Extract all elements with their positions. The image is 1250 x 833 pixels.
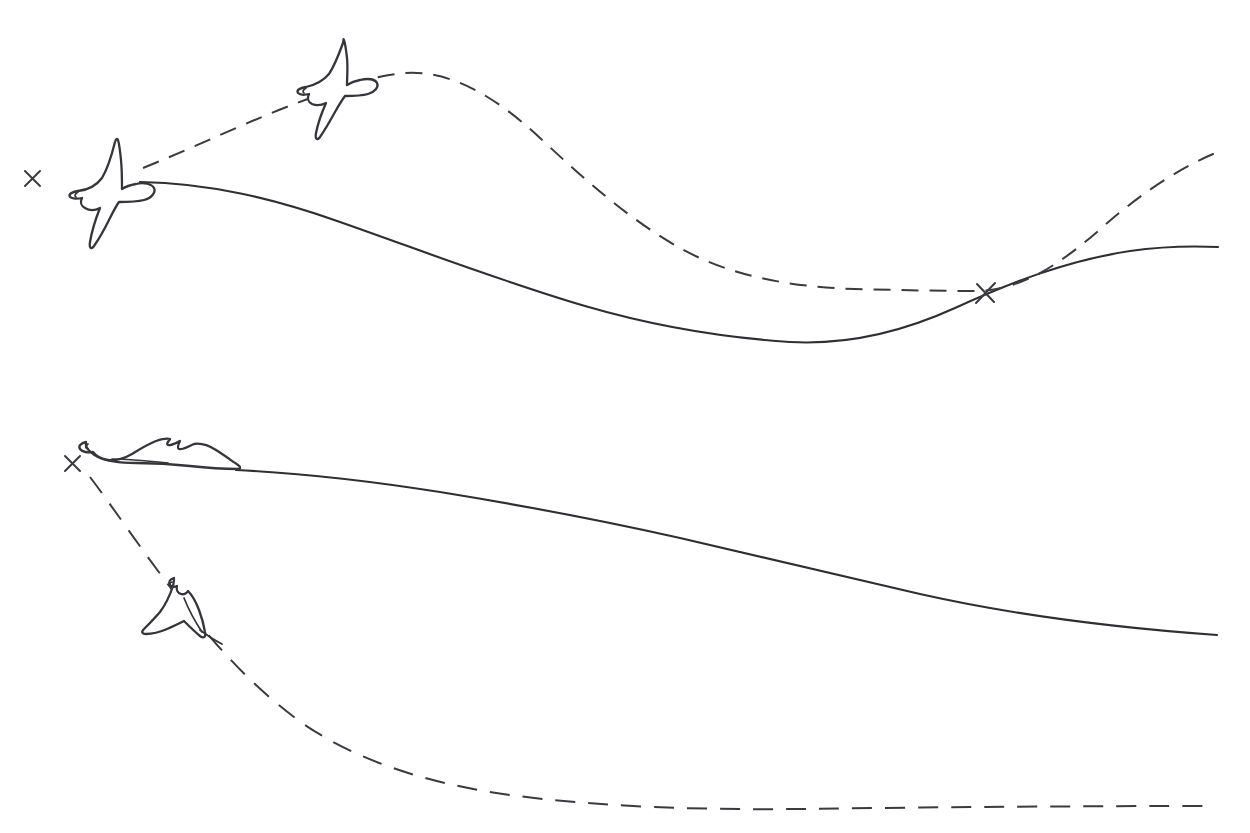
canvas-background (0, 0, 1250, 833)
bird-trajectory-diagram (0, 0, 1250, 833)
sketch-canvas: Bird flight trajectory sketch hand-drawn… (0, 0, 1250, 833)
